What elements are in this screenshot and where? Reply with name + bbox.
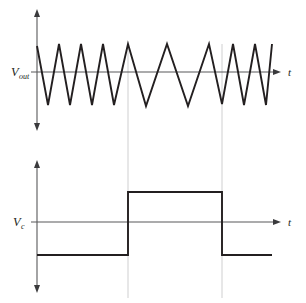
figure-svg: V out t V c t: [0, 0, 306, 303]
vout-axis-label-subscript: out: [19, 72, 30, 81]
vc-x-axis-arrow: [273, 219, 281, 225]
vc-waveform: [37, 192, 272, 255]
vout-time-axis-label: t: [288, 66, 292, 78]
vc-panel: V c t: [13, 160, 292, 293]
vout-y-axis-arrow-down: [34, 123, 40, 131]
vc-y-axis-arrow-down: [34, 285, 40, 293]
vc-axis-label-subscript: c: [21, 222, 25, 231]
vc-y-axis-arrow-up: [34, 160, 40, 168]
vout-y-axis-arrow-up: [34, 9, 40, 17]
vc-time-axis-label: t: [288, 216, 292, 228]
vout-waveform: [37, 44, 272, 106]
vout-panel: V out t: [11, 9, 292, 131]
waveform-figure: V out t V c t: [0, 0, 306, 303]
vout-x-axis-arrow: [273, 69, 281, 75]
guide-lines-group: [128, 44, 222, 298]
